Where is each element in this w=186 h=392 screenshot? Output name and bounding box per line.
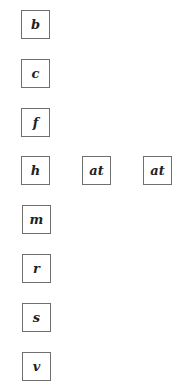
- tile-label: h: [31, 164, 40, 177]
- tile-label: f: [33, 116, 39, 129]
- letter-tile-f[interactable]: f: [21, 108, 50, 137]
- letter-tile-v[interactable]: v: [22, 352, 51, 381]
- letter-tile-s[interactable]: s: [22, 303, 51, 332]
- tile-label: b: [31, 18, 40, 31]
- tile-label: v: [33, 360, 41, 373]
- tile-label: m: [30, 213, 44, 226]
- tile-label: c: [32, 67, 40, 80]
- letter-tile-h[interactable]: h: [21, 156, 50, 185]
- letter-tile-m[interactable]: m: [22, 205, 51, 234]
- word-tile-at-1[interactable]: at: [82, 156, 111, 185]
- letter-tile-b[interactable]: b: [21, 10, 50, 39]
- tile-label: r: [33, 262, 40, 275]
- tile-label: s: [33, 311, 40, 324]
- tile-label: at: [150, 164, 164, 177]
- letter-tile-c[interactable]: c: [21, 59, 50, 88]
- word-tile-at-2[interactable]: at: [143, 156, 172, 185]
- letter-tile-r[interactable]: r: [22, 254, 51, 283]
- tile-label: at: [89, 164, 103, 177]
